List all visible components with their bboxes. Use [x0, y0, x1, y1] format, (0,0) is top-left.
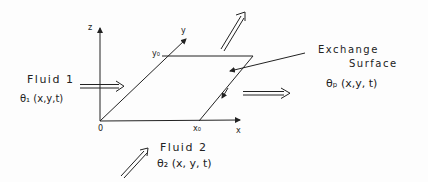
y0-label: y₀: [152, 50, 160, 58]
z-axis-label: z: [88, 24, 92, 32]
exchange-surface-label-line1: Exchange: [318, 45, 379, 55]
fluid2-temperature: θ₂ (x, y, t): [157, 158, 212, 169]
x0-label: x₀: [193, 125, 201, 133]
y-axis-label: y: [181, 27, 186, 35]
heat-exchanger-diagram: [0, 0, 428, 182]
fluid1-label: Fluid 1: [27, 74, 74, 85]
exchange-surface-label-line2: Surface: [349, 59, 398, 69]
fluid2-outflow-arrow: [221, 12, 245, 51]
fluid2-label: Fluid 2: [160, 142, 207, 153]
x-axis-label: x: [236, 127, 241, 135]
x-axis: [100, 120, 240, 121]
fluid1-flow-arrow: [80, 81, 124, 92]
fluid1-temperature: θ₁ (x,y,t): [20, 94, 63, 104]
y-axis: [100, 39, 186, 121]
surface-temperature: θₚ (x,y, t): [326, 78, 377, 89]
exchange-surface-shape: [162, 56, 253, 121]
diagram-canvas: z y x 0 y₀ x₀ Fluid 1 θ₁ (x,y,t) Fluid 2…: [0, 0, 428, 182]
fluid2-flow-arrow: [121, 148, 148, 178]
fluid1-outflow-arrow: [243, 88, 290, 99]
origin-label: 0: [98, 125, 103, 133]
